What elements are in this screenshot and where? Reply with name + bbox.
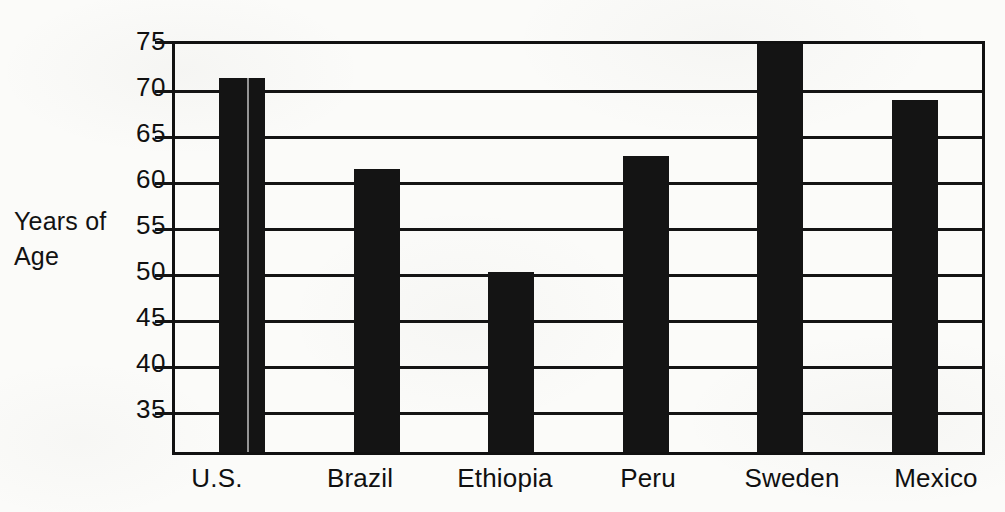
tick-mark-55 [155,228,172,231]
y-tick-label-70: 70 [110,74,166,100]
bar-peru [623,156,669,452]
x-tick-label-brazil: Brazil [327,463,393,493]
tick-mark-50 [155,274,172,277]
gridline-50 [175,274,982,277]
y-tick-label-60: 60 [110,166,166,192]
tick-mark-35 [155,412,172,415]
x-tick-label-sweden: Sweden [744,463,839,493]
gridline-65 [175,136,982,139]
gridline-60 [175,182,982,185]
x-tick-label-us: U.S. [191,463,242,493]
tick-mark-75 [155,41,172,44]
bar-mexico [892,100,938,452]
x-tick-label-peru: Peru [620,463,676,493]
scan-artifact-line [247,78,249,452]
tick-mark-40 [155,366,172,369]
tick-mark-60 [155,182,172,185]
bar-us [219,78,265,452]
y-tick-label-55: 55 [110,212,166,238]
bar-sweden [757,44,803,452]
y-tick-label-65: 65 [110,120,166,146]
y-tick-label-40: 40 [110,350,166,376]
tick-mark-45 [155,320,172,323]
x-tick-label-ethiopia: Ethiopia [457,463,553,493]
bar-chart-figure: Years of Age 75 70 65 60 55 50 45 40 35 [0,0,1005,512]
y-tick-label-45: 45 [110,304,166,330]
gridline-55 [175,228,982,231]
bar-brazil [354,169,400,452]
y-tick-label-35: 35 [110,396,166,422]
tick-mark-65 [155,136,172,139]
gridline-45 [175,320,982,323]
tick-mark-70 [155,90,172,93]
x-tick-label-mexico: Mexico [894,463,978,493]
y-tick-label-50: 50 [110,258,166,284]
gridline-35 [175,412,982,415]
plot-area [172,41,985,455]
bar-ethiopia [488,272,534,452]
gridline-70 [175,90,982,93]
gridline-40 [175,366,982,369]
